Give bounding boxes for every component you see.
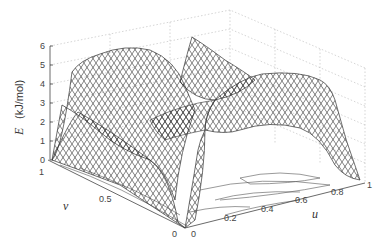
- svg-text:2: 2: [40, 117, 45, 127]
- z-axis-label: E (kJ/mol): [12, 80, 26, 136]
- svg-text:0.8: 0.8: [331, 187, 344, 197]
- svg-text:(kJ/mol): (kJ/mol): [13, 80, 25, 119]
- z-tick-labels: 0 1 2 3 4 5 6: [40, 41, 45, 165]
- svg-text:3: 3: [40, 98, 45, 108]
- svg-text:5: 5: [40, 60, 45, 70]
- svg-text:0: 0: [172, 229, 177, 239]
- u-tick-labels: 0 0.2 0.4 0.6 0.8 1: [191, 180, 372, 239]
- svg-text:0.4: 0.4: [261, 204, 274, 214]
- svg-text:6: 6: [40, 41, 45, 51]
- svg-text:0.6: 0.6: [295, 195, 308, 205]
- svg-text:0.5: 0.5: [99, 194, 112, 204]
- svg-text:1: 1: [367, 180, 372, 190]
- svg-text:0: 0: [40, 155, 45, 165]
- svg-text:4: 4: [40, 79, 45, 89]
- svg-text:0.2: 0.2: [224, 213, 237, 223]
- surface-plot: 0 1 2 3 4 5 6 1 0.5 0 0 0.2 0.4 0.6 0.8 …: [0, 0, 380, 240]
- svg-text:1: 1: [39, 167, 44, 177]
- svg-text:0: 0: [191, 229, 196, 239]
- u-axis-label: u: [312, 207, 318, 221]
- z-ticks: [50, 46, 53, 160]
- v-axis-label: v: [63, 199, 69, 213]
- svg-text:1: 1: [40, 136, 45, 146]
- svg-text:E: E: [12, 127, 26, 136]
